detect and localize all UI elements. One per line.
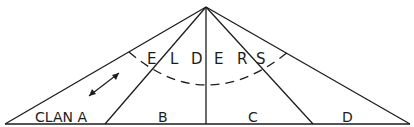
section-label-d: D [342, 109, 353, 125]
elders-letter-e1: E [147, 50, 156, 68]
section-label-b: B [158, 109, 168, 125]
elders-letter-s: S [256, 50, 266, 68]
section-label-c: C [248, 109, 258, 125]
elders-letter-e2: E [214, 50, 223, 68]
elders-letter-d: D [191, 50, 203, 68]
double-headed-arrow-icon [89, 73, 119, 96]
pyramid-diagram: E L D E R S CLAN A B C D [0, 0, 414, 127]
section-label-clan-a: CLAN A [35, 109, 87, 125]
elders-letter-r: R [237, 50, 247, 68]
elders-letter-l: L [170, 50, 179, 68]
